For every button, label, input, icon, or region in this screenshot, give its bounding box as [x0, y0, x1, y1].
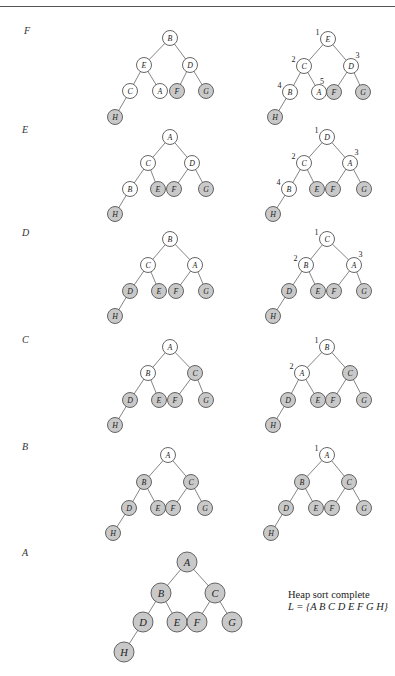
step-label-d: D: [22, 227, 29, 238]
tree-node: E: [309, 501, 324, 516]
node-letter: A: [183, 557, 191, 568]
node-letter: C: [301, 62, 307, 71]
node-letter: D: [188, 159, 195, 168]
node-letter: D: [284, 396, 291, 405]
tree-node: G: [199, 284, 214, 299]
node-letter: D: [282, 504, 289, 513]
node-letter: C: [145, 261, 151, 270]
node-letter: F: [193, 617, 201, 628]
node-letter: F: [330, 185, 336, 194]
tree-node: A: [163, 340, 178, 355]
tree-node: B: [151, 583, 171, 603]
node-letter: E: [141, 61, 147, 70]
node-letter: B: [168, 34, 173, 43]
tree-node: E: [151, 182, 166, 197]
node-letter: A: [351, 261, 357, 270]
heap-sort-diagram: BEDCAFGHE1C2D3B4A5FGHACDBEFGHD1C2A3B4EFG…: [0, 0, 395, 676]
tree-node: G: [357, 393, 372, 408]
tree-node: C: [205, 583, 225, 603]
node-letter: D: [285, 287, 292, 296]
tree-node: H: [108, 110, 123, 125]
node-letter: D: [126, 396, 133, 405]
node-letter: A: [165, 451, 171, 460]
step-label-e: E: [22, 124, 28, 135]
tree-node: F: [166, 501, 181, 516]
tree-node: B: [295, 475, 310, 490]
node-letter: A: [157, 87, 163, 96]
tree-node: F: [167, 182, 182, 197]
step-label-a: A: [22, 547, 28, 558]
heap-index-label: 1: [316, 28, 320, 37]
caption-result: L = {A B C D E F G H}: [288, 601, 388, 613]
tree-node: F: [325, 501, 340, 516]
tree-node: D: [122, 501, 137, 516]
tree-node: C2: [292, 152, 312, 171]
tree-node: B1: [315, 336, 335, 355]
tree-node: H: [268, 110, 283, 125]
node-letter: B: [288, 88, 293, 97]
tree-node: G: [222, 612, 242, 632]
tree-node: F: [170, 84, 185, 99]
tree-node: G: [199, 182, 214, 197]
node-letter: F: [170, 504, 176, 513]
node-letter: C: [346, 478, 352, 487]
tree-node: H: [266, 418, 281, 433]
node-letter: B: [168, 235, 173, 244]
tree-node: B: [163, 232, 178, 247]
heap-index-label: 1: [315, 228, 319, 237]
step-label-f: F: [24, 25, 30, 36]
tree-node: F: [168, 393, 183, 408]
step-label-c: C: [22, 334, 29, 345]
node-letter: D: [323, 133, 330, 142]
tree-node: G: [357, 284, 372, 299]
tree-before: BCADEFGH: [108, 232, 214, 324]
tree-node: F: [326, 182, 341, 197]
heap-index-label: 5: [320, 77, 324, 86]
heap-index-label: 1: [315, 444, 319, 453]
node-letter: B: [158, 588, 165, 599]
tree-node: B4: [277, 178, 297, 197]
heap-index-label: 3: [359, 250, 363, 259]
node-letter: E: [156, 396, 162, 405]
tree-node: H: [264, 526, 279, 541]
node-letter: A: [167, 343, 173, 352]
tree-node: C: [184, 475, 199, 490]
node-letter: D: [138, 617, 147, 628]
node-letter: G: [203, 185, 209, 194]
node-letter: C: [188, 478, 194, 487]
tree-node: H: [108, 418, 123, 433]
node-letter: C: [211, 588, 219, 599]
tree-node: D1: [315, 126, 335, 145]
node-letter: G: [360, 88, 366, 97]
node-letter: F: [174, 87, 180, 96]
node-letter: B: [128, 185, 133, 194]
tree-node: D: [123, 393, 138, 408]
tree-node: G: [199, 84, 214, 99]
tree-node: B: [141, 366, 156, 381]
tree-node: D: [281, 393, 296, 408]
tree-node: A3: [347, 250, 363, 273]
tree-after: B1A2CDEFGH: [266, 336, 372, 433]
tree-node: C: [123, 84, 138, 99]
tree-node: F: [327, 284, 342, 299]
tree-node: E: [152, 284, 167, 299]
tree-node: H: [108, 309, 123, 324]
tree-node: B: [163, 31, 178, 46]
heap-index-label: 4: [277, 178, 281, 187]
tree-node: F: [169, 284, 184, 299]
heap-index-label: 3: [356, 51, 360, 60]
tree-node: G: [356, 85, 371, 100]
tree-after: A1BCDEFGH: [264, 444, 372, 541]
tree-before: ABCDEFGH: [108, 340, 214, 433]
node-letter: F: [172, 396, 178, 405]
node-letter: G: [228, 617, 236, 628]
node-letter: F: [329, 504, 335, 513]
tree-node: B: [123, 182, 138, 197]
node-letter: G: [361, 185, 367, 194]
result-caption: Heap sort complete L = {A B C D E F G H}: [288, 589, 388, 613]
tree-node: G: [357, 501, 372, 516]
tree-node: A3: [343, 148, 359, 171]
node-letter: C: [192, 369, 198, 378]
node-letter: F: [173, 287, 179, 296]
tree-node: D: [183, 58, 198, 73]
